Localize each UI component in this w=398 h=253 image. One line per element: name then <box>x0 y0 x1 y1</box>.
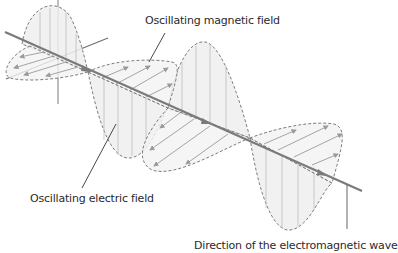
electric-field-label: Oscillating electric field <box>30 192 154 205</box>
magnetic-field-label: Oscillating magnetic field <box>145 14 280 27</box>
electric-label-pointer <box>82 124 116 188</box>
magnetic-label-pointer <box>149 33 165 62</box>
wave-direction-label: Direction of the electromagnetic wave <box>194 239 398 252</box>
